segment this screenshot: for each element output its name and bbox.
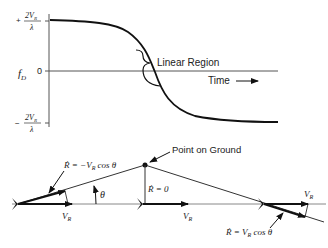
doppler-diagram: Linear Region Time fD 0 + 2VR λ − 2VR λ bbox=[0, 0, 328, 248]
projection-left bbox=[65, 191, 68, 204]
tick-zero-label: 0 bbox=[37, 66, 42, 76]
time-label: Time bbox=[208, 75, 230, 86]
rdot-vector-left bbox=[18, 191, 65, 204]
rdot-left-label: Ṙ = −VR cos θ bbox=[63, 160, 117, 171]
theta-label: θ bbox=[100, 189, 105, 200]
projection-right bbox=[305, 204, 308, 217]
y-axis-label: fD bbox=[18, 67, 26, 82]
tick-bottom-sign: − bbox=[15, 119, 20, 128]
los-right bbox=[145, 165, 324, 222]
tick-top-sign: + bbox=[16, 16, 21, 25]
linear-region-label: Linear Region bbox=[157, 57, 219, 68]
vr-label-right: VR bbox=[304, 189, 314, 200]
rdot-right-pointer bbox=[270, 213, 283, 228]
vr-label-mid: VR bbox=[183, 211, 193, 222]
point-pointer bbox=[150, 152, 170, 162]
point-on-ground-label: Point on Ground bbox=[172, 144, 241, 155]
theta-arc bbox=[94, 186, 96, 204]
rdot-right-label: Ṙ = VR cos θ bbox=[225, 227, 273, 238]
tick-top-numerator: 2VR bbox=[25, 11, 37, 21]
tick-top-denominator: λ bbox=[29, 23, 34, 32]
rdot-vector-right bbox=[264, 204, 305, 217]
geometry-diagram: Point on Ground VR Ṙ = −VR cos θ θ VR Ṙ … bbox=[12, 144, 326, 238]
rdot-left-pointer bbox=[49, 171, 64, 193]
rdot-mid-label: Ṙ = 0 bbox=[147, 184, 169, 194]
vr-label-left: VR bbox=[62, 211, 72, 222]
tick-bottom-numerator: 2VR bbox=[25, 113, 37, 123]
tick-bottom-denominator: λ bbox=[29, 125, 34, 134]
doppler-plot: Linear Region Time fD 0 + 2VR λ − 2VR λ bbox=[15, 11, 278, 134]
